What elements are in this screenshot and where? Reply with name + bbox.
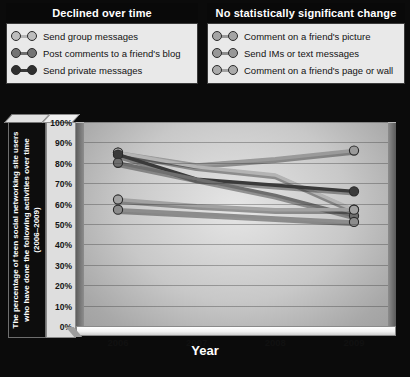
gridline <box>84 244 388 245</box>
legend-item-label: Send IMs or text messages <box>244 48 359 59</box>
data-point-marker <box>113 205 122 214</box>
legend-item-label: Comment on a friend's picture <box>244 31 370 42</box>
y-axis-title-panel: The percentage of teen social networking… <box>8 122 46 338</box>
data-point-marker <box>349 146 358 155</box>
legend-title-declined: Declined over time <box>6 3 198 23</box>
y-axis-title: The percentage of teen social networking… <box>11 125 43 335</box>
legend-title-no-change: No statistically significant change <box>207 3 405 23</box>
gridline <box>84 142 388 143</box>
y-axis-tick-label: 10% <box>55 302 72 312</box>
data-point-marker <box>349 217 358 226</box>
chart-area: The percentage of teen social networking… <box>8 110 402 338</box>
line-marker-icon <box>212 31 238 42</box>
gridline <box>84 204 388 205</box>
legend-item[interactable]: Send private messages <box>11 62 192 79</box>
y-axis-tick-label: 80% <box>55 159 72 169</box>
gridline <box>84 163 388 164</box>
gridline <box>84 265 388 266</box>
y-axis-tick-label: 90% <box>55 138 72 148</box>
line-marker-icon <box>11 65 37 76</box>
legend-item-label: Comment on a friend's page or wall <box>244 65 393 76</box>
y-axis-tick-label: 60% <box>55 200 72 210</box>
legend-item[interactable]: Send group messages <box>11 28 192 45</box>
data-point-marker <box>349 187 358 196</box>
plot-wall-left <box>76 122 84 327</box>
legend-items-declined: Send group messages Post comments to a f… <box>6 23 198 84</box>
legend-item-label: Send group messages <box>43 31 138 42</box>
y-axis-tick-label: 50% <box>55 220 72 230</box>
x-axis-title: Year <box>0 343 410 358</box>
line-marker-icon <box>212 65 238 76</box>
legend-panel-declined: Declined over time Send group messages P… <box>6 3 198 84</box>
y-axis-tick-label: 30% <box>55 261 72 271</box>
chart-screenshot: Declined over time Send group messages P… <box>0 0 410 377</box>
legend-item[interactable]: Comment on a friend's page or wall <box>212 62 399 79</box>
y-axis-tick-label: 70% <box>55 179 72 189</box>
y-axis-tick-label: 100% <box>50 118 72 128</box>
gridline <box>84 183 388 184</box>
plot-wall-right <box>388 122 396 327</box>
line-marker-icon <box>11 48 37 59</box>
y-axis-tick-label: 20% <box>55 281 72 291</box>
y-axis-tick-panel: 0%10%20%30%40%50%60%70%80%90%100% <box>46 122 76 338</box>
plot-canvas <box>84 122 388 326</box>
data-point-marker <box>349 205 358 214</box>
legend-panel-no-change: No statistically significant change Comm… <box>207 3 405 84</box>
legend-items-no-change: Comment on a friend's picture Send IMs o… <box>207 23 405 84</box>
legend-item-label: Post comments to a friend's blog <box>43 48 181 59</box>
gridline <box>84 122 388 123</box>
legend-item[interactable]: Post comments to a friend's blog <box>11 45 192 62</box>
legend-item[interactable]: Comment on a friend's picture <box>212 28 399 45</box>
legend-item[interactable]: Send IMs or text messages <box>212 45 399 62</box>
plot-floor <box>76 326 396 336</box>
line-marker-icon <box>11 31 37 42</box>
gridline <box>84 306 388 307</box>
legend-item-label: Send private messages <box>43 65 142 76</box>
y-axis-tick-label: 40% <box>55 240 72 250</box>
gridline <box>84 285 388 286</box>
line-marker-icon <box>212 48 238 59</box>
gridline <box>84 224 388 225</box>
